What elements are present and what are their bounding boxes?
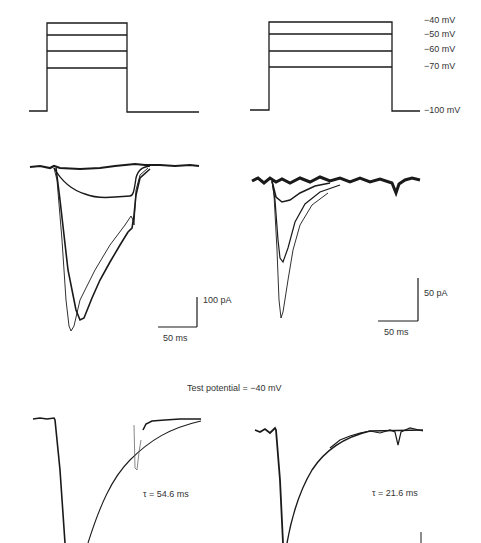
left-scale-bar	[158, 297, 197, 327]
figure-graphics	[0, 0, 481, 543]
left-current-traces	[30, 164, 199, 331]
right-voltage-protocol	[250, 22, 420, 111]
right-current-traces	[252, 177, 420, 321]
protocol-label-minus50: −50 mV	[424, 30, 455, 39]
test-potential-title: Test potential = −40 mV	[187, 384, 282, 393]
left-time-scale-label: 50 ms	[163, 334, 188, 343]
protocol-label-minus100: −100 mV	[424, 106, 460, 115]
left-fit-trace	[33, 418, 201, 543]
right-current-scale-label: 50 pA	[424, 289, 448, 298]
left-voltage-protocol	[29, 23, 199, 112]
protocol-label-minus60: −60 mV	[424, 45, 455, 54]
left-tau-label: τ = 54.6 ms	[143, 490, 189, 499]
left-current-scale-label: 100 pA	[203, 296, 232, 305]
right-fit-trace	[255, 428, 423, 543]
protocol-label-minus40: −40 mV	[424, 16, 455, 25]
right-time-scale-label: 50 ms	[384, 328, 409, 337]
protocol-label-minus70: −70 mV	[424, 62, 455, 71]
right-tau-label: τ = 21.6 ms	[372, 489, 418, 498]
right-scale-bar	[378, 278, 418, 321]
